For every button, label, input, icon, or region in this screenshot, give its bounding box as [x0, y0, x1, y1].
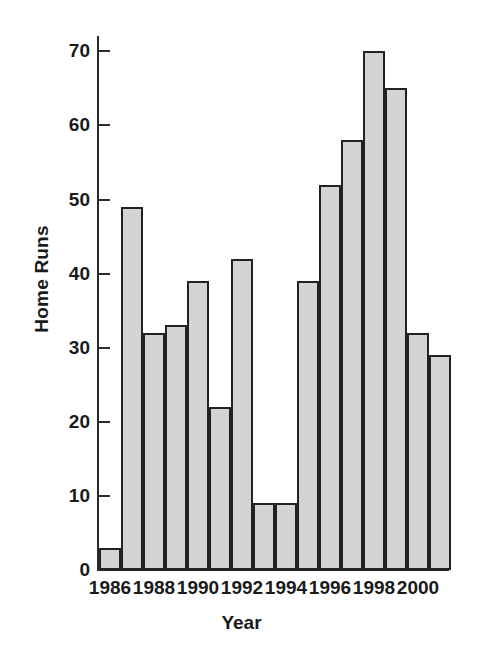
y-axis-tick-label: 70 — [28, 41, 90, 61]
y-axis-tick-40 — [99, 273, 110, 275]
y-axis-line — [97, 36, 99, 571]
bar-1996 — [319, 185, 341, 570]
y-axis-tick-30 — [99, 347, 110, 349]
bar-1990 — [187, 281, 209, 570]
bar-1997 — [341, 140, 363, 570]
bar-1988 — [143, 333, 165, 570]
y-axis-tick-60 — [99, 124, 110, 126]
x-axis-tick-label-1990: 1990 — [174, 578, 222, 597]
bar-1998 — [363, 51, 385, 570]
x-axis-tick-label-1988: 1988 — [130, 578, 178, 597]
y-axis-tick-50 — [99, 199, 110, 201]
bar-1989 — [165, 325, 187, 570]
y-axis-tick-label-text: 0 — [32, 560, 90, 579]
y-axis-tick-label-text: 70 — [32, 41, 90, 60]
x-axis-title: Year — [0, 612, 483, 634]
x-axis-tick-label-1992: 1992 — [218, 578, 266, 597]
plot-area: 010203040506070 198619881990199219941996… — [0, 0, 483, 648]
y-axis-tick-70 — [99, 50, 110, 52]
y-axis-tick-10 — [99, 495, 110, 497]
bar-2000 — [407, 333, 429, 570]
y-axis-tick-label: 0 — [28, 560, 90, 580]
bar-1992 — [231, 259, 253, 570]
x-axis-tick-label-1994: 1994 — [262, 578, 310, 597]
x-axis-tick-label-1998: 1998 — [350, 578, 398, 597]
y-axis-tick-label: 60 — [28, 115, 90, 135]
y-axis-tick-20 — [99, 421, 110, 423]
y-axis-tick-label-text: 10 — [32, 486, 90, 505]
bar-1987 — [121, 207, 143, 570]
x-axis-tick-label-1996: 1996 — [306, 578, 354, 597]
bar-1999 — [385, 88, 407, 570]
bar-2001 — [429, 355, 451, 570]
y-axis-tick-label-text: 20 — [32, 412, 90, 431]
bar-1993 — [253, 503, 275, 570]
y-axis-tick-label: 20 — [28, 412, 90, 432]
y-axis-title: Home Runs — [31, 199, 53, 359]
bar-1994 — [275, 503, 297, 570]
y-axis-tick-label: 10 — [28, 486, 90, 506]
bar-1991 — [209, 407, 231, 570]
x-axis-tick-label-1986: 1986 — [86, 578, 134, 597]
x-axis-tick-label-2000: 2000 — [394, 578, 442, 597]
bar-1986 — [99, 548, 121, 570]
bar-1995 — [297, 281, 319, 570]
y-axis-tick-label-text: 60 — [32, 115, 90, 134]
home-runs-bar-chart: 010203040506070 198619881990199219941996… — [0, 0, 483, 648]
